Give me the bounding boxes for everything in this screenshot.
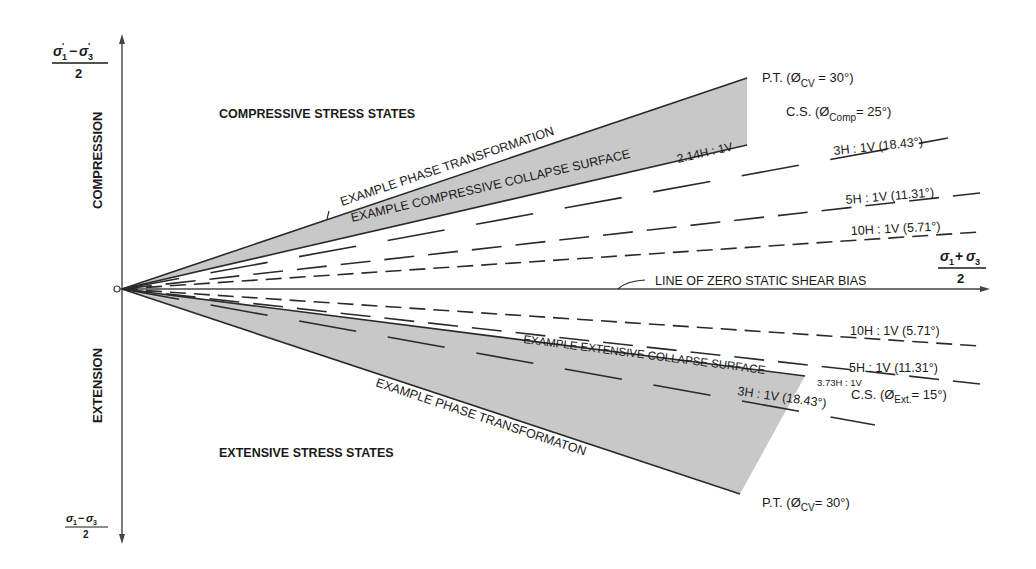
svg-text:3: 3	[93, 519, 97, 526]
svg-text:1: 1	[73, 519, 77, 526]
arrow-right-icon	[980, 286, 990, 292]
svg-text:3: 3	[975, 257, 980, 267]
lower-cs-annotation: C.S. (ØExt.= 15°)	[851, 387, 947, 405]
svg-text:P.T. (ØCV = 30°): P.T. (ØCV = 30°)	[762, 70, 854, 89]
x-axis-label: σ 1 + σ 3 2	[938, 248, 986, 286]
y-axis-top-label: σ 1 ' − σ 3 ' 2	[52, 41, 108, 81]
upper-phase-transformation-line	[122, 78, 747, 289]
upper-cs-annotation: C.S. (ØComp= 25°)	[786, 104, 891, 123]
arrow-up-icon	[119, 34, 125, 44]
svg-text:3: 3	[88, 52, 93, 62]
svg-text:C.S. (ØComp= 25°): C.S. (ØComp= 25°)	[786, 104, 891, 123]
svg-text:2: 2	[957, 271, 964, 286]
svg-text:': '	[88, 41, 90, 51]
svg-text:2: 2	[83, 529, 89, 540]
stress-state-diagram: σ 1 ' − σ 3 ' 2 σ 1 − σ 3 2 σ 1 + σ 3 2 …	[0, 0, 1036, 569]
svg-text:P.T. (ØCV= 30°): P.T. (ØCV= 30°)	[762, 495, 850, 513]
y-axis-bottom-label: σ 1 − σ 3 2	[65, 512, 108, 540]
lower-10h-label: 10H : 1V (5.71°)	[850, 324, 940, 338]
svg-text:': '	[62, 41, 64, 51]
svg-text:1: 1	[62, 52, 67, 62]
zero-line-leader	[618, 280, 645, 289]
upper-pt-annotation: P.T. (ØCV = 30°)	[762, 70, 854, 89]
compression-axis-label: COMPRESSION	[90, 111, 105, 209]
compressive-region-label: COMPRESSIVE STRESS STATES	[219, 107, 415, 121]
lower-pt-annotation: P.T. (ØCV= 30°)	[762, 495, 850, 513]
origin-marker-icon	[114, 286, 120, 292]
extension-axis-label: EXTENSION	[90, 348, 105, 423]
svg-text:1: 1	[949, 257, 954, 267]
extensive-shaded-wedge	[122, 289, 805, 494]
svg-text:+: +	[955, 248, 963, 264]
extensive-region-label: EXTENSIVE STRESS STATES	[219, 446, 394, 460]
upper-3h-label: 3H : 1V (18.43°)	[833, 135, 924, 158]
zero-shear-bias-label: LINE OF ZERO STATIC SHEAR BIAS	[655, 274, 866, 288]
upper-pt-leader	[327, 211, 329, 219]
svg-text:−: −	[78, 512, 84, 524]
arrow-down-icon	[119, 534, 125, 544]
svg-text:C.S. (ØExt.= 15°): C.S. (ØExt.= 15°)	[851, 387, 947, 405]
svg-text:−: −	[69, 43, 77, 59]
lower-5h-label: 5H : 1V (11.31°)	[849, 361, 938, 375]
svg-text:2: 2	[75, 66, 82, 81]
